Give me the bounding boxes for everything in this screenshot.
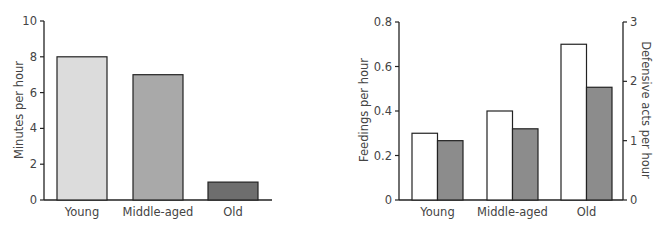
x-tick-label: Young xyxy=(419,205,454,219)
y-tick-label: 8 xyxy=(30,50,37,64)
y-tick-label: 6 xyxy=(30,86,37,100)
y-ticks-right: 0123 xyxy=(623,15,637,207)
bar-feedings xyxy=(487,111,513,200)
x-tick-label: Young xyxy=(64,205,99,219)
x-tick-label: Old xyxy=(577,205,597,219)
figure: 0246810 YoungMiddle-agedOld Minutes per … xyxy=(0,0,665,228)
y-tick-label-right: 2 xyxy=(630,74,637,88)
y-tick-label: 0.8 xyxy=(374,15,392,29)
y-tick-label: 0.6 xyxy=(374,60,392,74)
x-tick-labels: YoungMiddle-agedOld xyxy=(419,205,596,219)
y-tick-label: 2 xyxy=(30,157,37,171)
x-tick-label: Middle-aged xyxy=(123,205,194,219)
y-tick-label: 0 xyxy=(30,193,37,207)
x-tick-label: Middle-aged xyxy=(477,205,548,219)
y-tick-label: 10 xyxy=(22,14,37,28)
y-tick-label-right: 1 xyxy=(630,134,637,148)
y-tick-label-right: 0 xyxy=(630,193,637,207)
bars xyxy=(412,44,612,200)
y-ticks-left: 00.20.40.60.8 xyxy=(374,15,399,207)
y-axis-label: Minutes per hour xyxy=(12,61,26,159)
chart-minutes-per-hour: 0246810 YoungMiddle-agedOld Minutes per … xyxy=(12,14,272,219)
bar-defensive xyxy=(513,129,539,200)
y-tick-label: 0.2 xyxy=(374,149,392,163)
bar-feedings xyxy=(561,44,587,200)
bar xyxy=(208,182,258,200)
y-tick-label: 0.4 xyxy=(374,104,392,118)
y-axis-label-left: Feedings per hour xyxy=(357,58,371,162)
bar xyxy=(57,57,107,200)
chart-feedings-defensive: 00.20.40.60.8 0123 YoungMiddle-agedOld F… xyxy=(357,15,653,219)
y-tick-label: 4 xyxy=(30,121,37,135)
bar-feedings xyxy=(412,133,438,200)
bars xyxy=(57,57,258,200)
y-axis-label-right: Defensive acts per hour xyxy=(639,41,653,179)
bar-defensive xyxy=(587,87,613,200)
x-tick-label: Old xyxy=(223,205,243,219)
bar-defensive xyxy=(438,141,464,200)
y-tick-label: 0 xyxy=(385,193,392,207)
y-tick-label-right: 3 xyxy=(630,15,637,29)
x-tick-labels: YoungMiddle-agedOld xyxy=(64,205,243,219)
bar xyxy=(133,75,183,200)
